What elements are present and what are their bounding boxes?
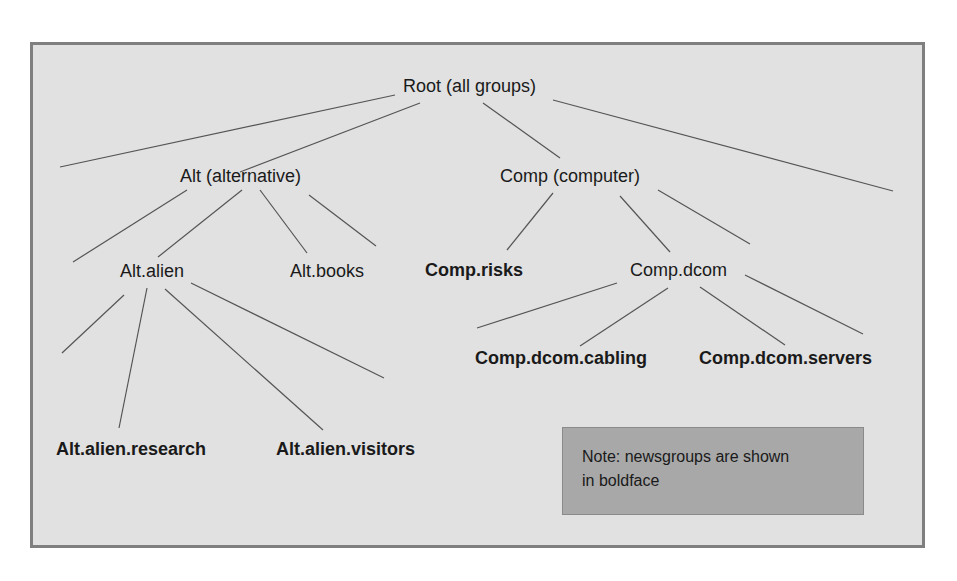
node-alt-alien-research: Alt.alien.research <box>56 440 206 458</box>
node-comp-risks: Comp.risks <box>425 261 523 279</box>
node-comp: Comp (computer) <box>500 167 640 185</box>
node-alt-alien: Alt.alien <box>120 262 184 280</box>
node-alt-books: Alt.books <box>290 262 364 280</box>
node-root: Root (all groups) <box>403 77 536 95</box>
legend-note: Note: newsgroups are shown in boldface <box>562 427 864 515</box>
node-comp-dcom-servers: Comp.dcom.servers <box>699 349 872 367</box>
legend-note-line2: in boldface <box>582 469 844 493</box>
node-alt: Alt (alternative) <box>180 167 301 185</box>
node-alt-alien-visitors: Alt.alien.visitors <box>276 440 415 458</box>
node-comp-dcom: Comp.dcom <box>630 261 727 279</box>
legend-note-line1: Note: newsgroups are shown <box>582 445 844 469</box>
node-comp-dcom-cabling: Comp.dcom.cabling <box>475 349 647 367</box>
